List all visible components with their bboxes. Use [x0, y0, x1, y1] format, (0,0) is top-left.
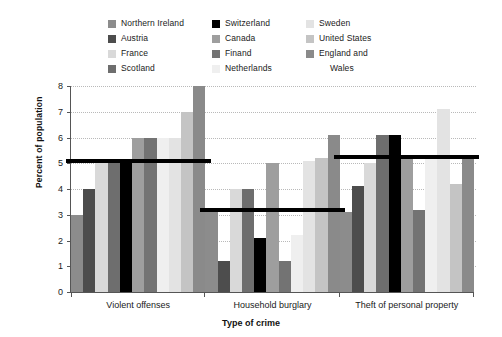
y-tick-label: 3 [58, 210, 63, 220]
legend-item[interactable]: Canada [212, 31, 306, 46]
legend-label: Scotland [121, 61, 155, 76]
legend-item[interactable]: Netherlands [212, 61, 306, 76]
y-tick-label: 6 [58, 133, 63, 143]
bar [266, 163, 278, 292]
legend-label: Canada [225, 31, 255, 46]
bar [462, 158, 474, 292]
bar [413, 210, 425, 292]
bar [352, 186, 364, 292]
legend-item[interactable]: Finand [212, 46, 306, 61]
bar-groups: Violent offensesHousehold burglaryTheft … [71, 86, 474, 292]
legend-label: Sweden [319, 16, 350, 31]
legend-item[interactable]: Northern Ireland [108, 16, 212, 31]
legend-item[interactable]: Switzerland [212, 16, 306, 31]
legend-color-swatch [108, 20, 116, 28]
bar-group: Theft of personal property [340, 86, 474, 292]
x-group-label: Violent offenses [106, 300, 170, 310]
bar [95, 163, 107, 292]
bar [437, 109, 449, 292]
legend-item[interactable]: France [108, 46, 212, 61]
x-group-label: Theft of personal property [355, 300, 458, 310]
y-tick-label: 0 [58, 287, 63, 297]
legend-color-swatch [108, 35, 116, 43]
bar [291, 235, 303, 292]
legend-label: Switzerland [225, 16, 270, 31]
x-tick-mark [339, 292, 340, 297]
bar [315, 158, 327, 292]
bar [450, 184, 462, 292]
x-tick-mark [204, 292, 205, 297]
legend-color-swatch [212, 35, 220, 43]
legend-color-swatch [108, 65, 116, 73]
bar [218, 261, 230, 292]
y-tick-label: 5 [58, 158, 63, 168]
legend-column-2: SwitzerlandCanadaFinandNetherlands [212, 16, 306, 82]
legend-item[interactable]: Austria [108, 31, 212, 46]
legend-color-swatch [306, 50, 314, 58]
legend-color-swatch [306, 35, 314, 43]
bar [181, 112, 193, 292]
legend-color-swatch [108, 50, 116, 58]
bar-group: Violent offenses [71, 86, 205, 292]
legend-label: England andWales [319, 46, 368, 76]
bar [279, 261, 291, 292]
bar [401, 158, 413, 292]
plot-area: 012345678 Violent offensesHousehold burg… [70, 86, 474, 293]
legend-color-swatch [306, 20, 314, 28]
legend-label: Northern Ireland [121, 16, 184, 31]
bar [120, 163, 132, 292]
legend-color-swatch [212, 50, 220, 58]
legend-label: France [121, 46, 148, 61]
y-tick-label: 7 [58, 107, 63, 117]
legend-label: Finand [225, 46, 252, 61]
y-tick-label: 1 [58, 261, 63, 271]
x-group-label: Household burglary [233, 300, 311, 310]
x-tick-mark [473, 292, 474, 297]
mean-reference-line [200, 208, 345, 212]
y-axis-label: Percent of population [34, 96, 44, 188]
legend-item[interactable]: United States [306, 31, 398, 46]
chart-legend: Northern IrelandAustriaFranceScotland Sw… [108, 16, 398, 82]
bar [230, 189, 242, 292]
legend-column-3: SwedenUnited StatesEngland andWales [306, 16, 398, 82]
legend-color-swatch [212, 65, 220, 73]
bar [193, 86, 205, 292]
bar [205, 212, 217, 292]
bar [364, 163, 376, 292]
legend-item[interactable]: Sweden [306, 16, 398, 31]
legend-color-swatch [212, 20, 220, 28]
bar [71, 215, 83, 292]
legend-label: Netherlands [225, 61, 272, 76]
legend-item[interactable]: Scotland [108, 61, 212, 76]
x-axis-label: Type of crime [0, 318, 502, 328]
legend-label: United States [319, 31, 371, 46]
legend-label-line2: Wales [319, 61, 368, 76]
legend-column-1: Northern IrelandAustriaFranceScotland [108, 16, 212, 82]
bar [83, 189, 95, 292]
legend-item[interactable]: England andWales [306, 46, 398, 73]
y-tick-label: 2 [58, 236, 63, 246]
legend-label: Austria [121, 31, 148, 46]
y-tick-label: 4 [58, 184, 63, 194]
bar-group: Household burglary [205, 86, 339, 292]
bar [254, 238, 266, 292]
bar [303, 161, 315, 292]
mean-reference-line [66, 159, 211, 163]
bar [108, 163, 120, 292]
bar-chart-figure: Northern IrelandAustriaFranceScotland Sw… [0, 0, 502, 337]
y-tick-label: 8 [58, 81, 63, 91]
x-tick-mark [71, 292, 72, 297]
bar [425, 158, 437, 292]
mean-reference-line [334, 155, 479, 159]
bar [242, 189, 254, 292]
bar [340, 212, 352, 292]
